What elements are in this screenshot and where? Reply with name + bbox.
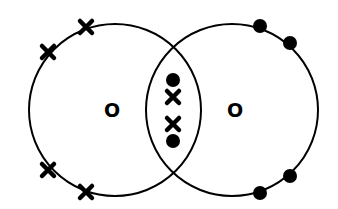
right-outer-electron-dot-icon [253, 186, 267, 200]
shared-electron-dot-icon [166, 134, 180, 148]
right-atom-label: O [227, 99, 243, 121]
shared-electron-dot-icon [166, 73, 180, 87]
shared-electron-cross-icon [167, 91, 179, 103]
right-outer-electron-dot-icon [283, 169, 297, 183]
o2-dot-cross-diagram: O O [0, 0, 338, 209]
electron-markers [42, 19, 297, 200]
right-outer-electron-dot-icon [283, 36, 297, 50]
shared-electron-cross-icon [167, 118, 179, 130]
left-atom-label: O [104, 99, 120, 121]
right-outer-electron-dot-icon [253, 19, 267, 33]
